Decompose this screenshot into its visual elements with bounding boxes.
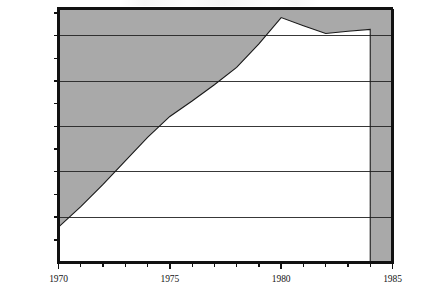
x-axis-label: 1980 (272, 274, 291, 285)
area-chart: $5,000$10,000$15,000$20,000$25,000$30,00… (0, 0, 427, 302)
x-axis-label: 1985 (383, 274, 402, 285)
x-axis-label: 1970 (49, 274, 68, 285)
x-axis-label: 1975 (161, 274, 180, 285)
x-axis-tick-labels: 1970197519801985 (0, 0, 427, 302)
